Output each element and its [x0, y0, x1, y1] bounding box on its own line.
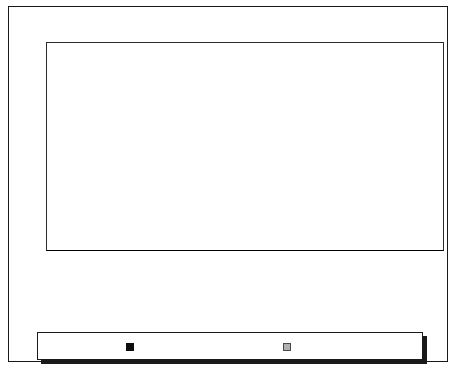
- grey-square-icon: [283, 343, 291, 351]
- chart-figure: [0, 0, 458, 375]
- black-square-icon: [126, 343, 134, 351]
- plot-area: [46, 42, 444, 251]
- y-axis-tick-labels: [0, 42, 42, 251]
- chart-legend: [37, 332, 423, 360]
- legend-item-no-mortgage: [126, 341, 140, 352]
- legend-item-with-mortgage: [283, 341, 297, 352]
